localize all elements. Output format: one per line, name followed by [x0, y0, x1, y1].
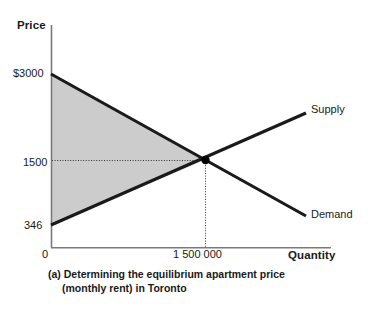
- y-tick-label-3000: $3000: [13, 68, 44, 79]
- y-axis-title: Price: [17, 20, 46, 32]
- origin-tick-label: 0: [42, 249, 48, 260]
- supply-curve-label: Supply: [311, 104, 345, 115]
- equilibrium-point-marker: [201, 156, 209, 164]
- caption-line-2: (monthly rent) in Toronto: [48, 282, 348, 296]
- x-axis-title: Quantity: [288, 250, 335, 262]
- demand-curve-label: Demand: [311, 209, 353, 220]
- shaded-surplus-region: [52, 75, 205, 224]
- x-tick-label-quantity: 1 500 000: [173, 249, 222, 260]
- y-tick-label-346: 346: [24, 220, 42, 231]
- figure-container: Price Quantity $3000 1500 346 0 1 500 00…: [0, 0, 380, 309]
- caption-line-1: (a) Determining the equilibrium apartmen…: [48, 268, 285, 280]
- supply-demand-chart: [0, 0, 380, 309]
- figure-caption: (a) Determining the equilibrium apartmen…: [48, 268, 348, 296]
- y-tick-label-1500: 1500: [23, 157, 47, 168]
